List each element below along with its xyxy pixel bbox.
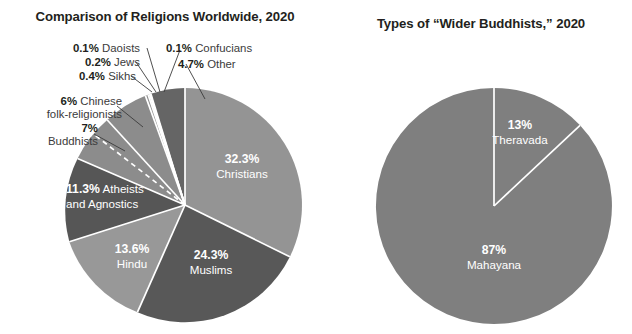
- label-theravada: 13% Theravada: [470, 118, 570, 146]
- label-jews: 0.2% Jews: [0, 56, 140, 69]
- right-pie-svg: [330, 0, 632, 334]
- label-buddhists: 7% Buddhists: [0, 122, 98, 148]
- label-atheists-and-agnostics: 11.3% Atheists and Agnostics: [66, 182, 194, 210]
- label-chinese-folk-religionists: 6% Chinese folk-religionists: [0, 95, 122, 121]
- label-christians: 32.3% Christians: [196, 152, 288, 180]
- label-other: 4.7% Other: [178, 58, 236, 71]
- label-confucians: 0.1% Confucians: [166, 42, 252, 55]
- label-daoists: 0.1% Daoists: [0, 42, 140, 55]
- label-mahayana: 87% Mahayana: [444, 243, 544, 271]
- label-hindu: 13.6% Hindu: [86, 242, 178, 270]
- label-muslims: 24.3% Muslims: [165, 248, 257, 276]
- right-chart-panel: Types of “Wider Buddhists,” 2020 13% The…: [330, 0, 632, 334]
- left-chart-panel: Comparison of Religions Worldwide, 2020: [0, 0, 330, 334]
- label-sikhs: 0.4% Sikhs: [0, 70, 136, 83]
